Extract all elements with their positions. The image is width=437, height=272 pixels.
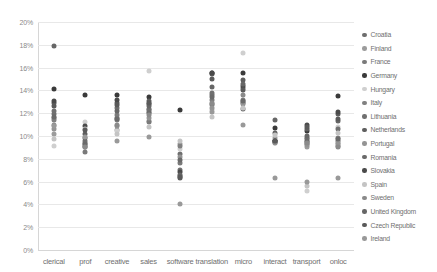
- gridline: [38, 113, 354, 114]
- legend-item[interactable]: France: [362, 55, 437, 69]
- x-tick-label: onloc: [330, 257, 347, 266]
- legend-item[interactable]: Ireland: [362, 232, 437, 246]
- y-tick-label: 20%: [20, 19, 33, 26]
- data-point: [241, 50, 246, 55]
- data-point: [178, 107, 183, 112]
- data-point: [241, 105, 246, 110]
- x-tick-label: prof: [79, 257, 91, 266]
- x-tick-label: transport: [293, 257, 321, 266]
- data-point: [146, 124, 151, 129]
- data-point: [115, 108, 120, 113]
- data-point: [178, 157, 183, 162]
- data-point: [115, 103, 120, 108]
- x-tick-label: creative: [105, 257, 130, 266]
- data-point: [336, 130, 341, 135]
- legend-item-label: United Kingdom: [371, 208, 417, 215]
- data-point: [336, 110, 341, 115]
- data-point: [178, 175, 183, 180]
- legend-swatch-icon: [362, 73, 367, 78]
- y-tick-label: 14%: [20, 87, 33, 94]
- legend-swatch-icon: [362, 87, 367, 92]
- gridline: [38, 227, 354, 228]
- data-point: [304, 188, 309, 193]
- data-point: [304, 134, 309, 139]
- data-point: [178, 138, 183, 143]
- legend-item-label: Netherlands: [371, 126, 405, 133]
- legend-item[interactable]: United Kingdom: [362, 205, 437, 219]
- data-point: [51, 87, 56, 92]
- data-point: [209, 77, 214, 82]
- data-point: [115, 131, 120, 136]
- data-point: [51, 98, 56, 103]
- y-tick-label: 6%: [23, 178, 33, 185]
- legend: CroatiaFinlandFranceGermanyHungaryItalyL…: [362, 28, 437, 246]
- legend-swatch-icon: [362, 46, 367, 51]
- legend-swatch-icon: [362, 209, 367, 214]
- legend-item[interactable]: Italy: [362, 96, 437, 110]
- data-point: [209, 95, 214, 100]
- legend-item-label: Germany: [371, 72, 398, 79]
- legend-item[interactable]: Finland: [362, 42, 437, 56]
- data-point: [273, 176, 278, 181]
- y-tick-label: 2%: [23, 224, 33, 231]
- data-point: [241, 98, 246, 103]
- legend-item-label: France: [371, 58, 391, 65]
- legend-swatch-icon: [362, 155, 367, 160]
- data-point: [336, 137, 341, 142]
- x-tick-label: clerical: [43, 257, 65, 266]
- gridline: [38, 250, 354, 251]
- legend-item[interactable]: Czech Republic: [362, 218, 437, 232]
- data-point: [83, 145, 88, 150]
- data-point: [51, 131, 56, 136]
- y-tick-label: 4%: [23, 201, 33, 208]
- legend-item[interactable]: Slovakia: [362, 164, 437, 178]
- legend-swatch-icon: [362, 182, 367, 187]
- y-tick-label: 16%: [20, 64, 33, 71]
- data-point: [51, 43, 56, 48]
- data-point: [83, 149, 88, 154]
- data-point: [146, 113, 151, 118]
- legend-item[interactable]: Germany: [362, 69, 437, 83]
- y-tick-label: 18%: [20, 41, 33, 48]
- data-point: [51, 123, 56, 128]
- legend-swatch-icon: [362, 101, 367, 106]
- gridline: [38, 159, 354, 160]
- legend-item-label: Hungary: [371, 86, 395, 93]
- legend-item[interactable]: Hungary: [362, 82, 437, 96]
- data-point: [336, 176, 341, 181]
- legend-item[interactable]: Croatia: [362, 28, 437, 42]
- legend-item[interactable]: Lithuania: [362, 110, 437, 124]
- data-point: [209, 100, 214, 105]
- legend-swatch-icon: [362, 128, 367, 133]
- legend-item-label: Spain: [371, 181, 387, 188]
- legend-item-label: Czech Republic: [371, 222, 416, 229]
- data-point: [51, 137, 56, 142]
- data-point: [336, 94, 341, 99]
- legend-swatch-icon: [362, 33, 367, 38]
- gridline: [38, 22, 354, 23]
- legend-item[interactable]: Portugal: [362, 137, 437, 151]
- data-point: [115, 97, 120, 102]
- legend-swatch-icon: [362, 168, 367, 173]
- x-tick-label: translation: [196, 257, 228, 266]
- data-point: [115, 122, 120, 127]
- legend-swatch-icon: [362, 236, 367, 241]
- legend-item[interactable]: Netherlands: [362, 123, 437, 137]
- legend-item[interactable]: Romania: [362, 150, 437, 164]
- legend-item[interactable]: Spain: [362, 178, 437, 192]
- data-point: [51, 108, 56, 113]
- data-point: [273, 118, 278, 123]
- data-point: [241, 71, 246, 76]
- gridline: [38, 45, 354, 46]
- data-point: [209, 71, 214, 76]
- data-point: [146, 135, 151, 140]
- data-point: [83, 128, 88, 133]
- legend-swatch-icon: [362, 60, 367, 65]
- legend-item-label: Portugal: [371, 140, 395, 147]
- legend-item[interactable]: Sweden: [362, 191, 437, 205]
- data-point: [83, 135, 88, 140]
- data-point: [304, 140, 309, 145]
- data-point: [241, 88, 246, 93]
- data-point: [336, 116, 341, 121]
- data-point: [241, 92, 246, 97]
